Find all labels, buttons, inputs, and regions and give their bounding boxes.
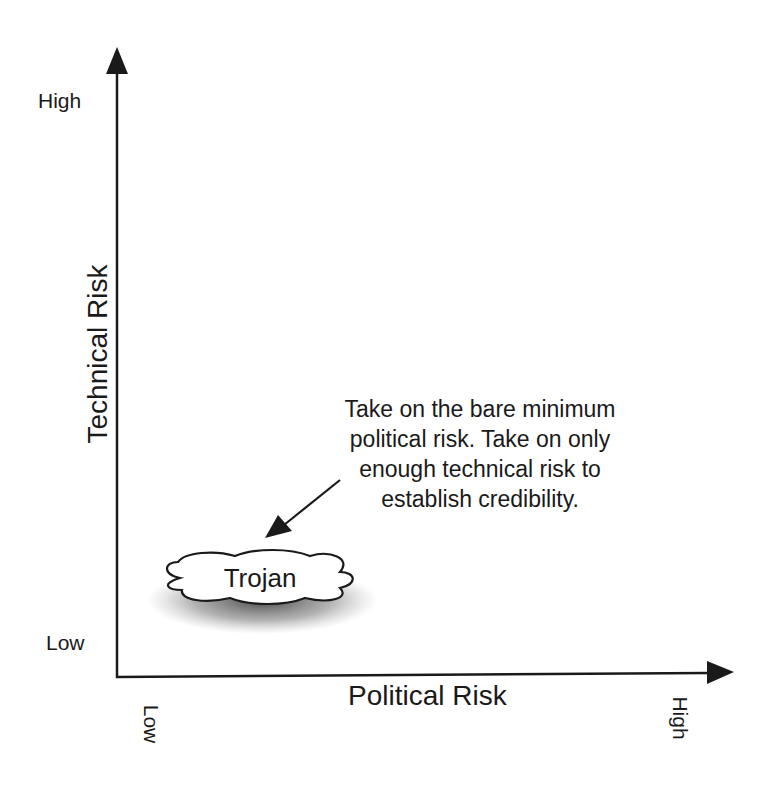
arrowhead-icon [265, 515, 292, 538]
annotation-line: enough technical risk to [300, 454, 660, 484]
x-axis-title: Political Risk [348, 680, 507, 712]
annotation-line: Take on the bare minimum [300, 394, 660, 424]
y-axis-arrowhead-icon [106, 47, 128, 74]
annotation-line: establish credibility. [300, 484, 660, 514]
x-axis-low-label: Low [139, 699, 163, 749]
y-axis-high-label: High [38, 89, 81, 113]
annotation-line: political risk. Take on only [300, 424, 660, 454]
y-axis-title: Technical Risk [82, 264, 114, 444]
trojan-label: Trojan [200, 563, 320, 594]
x-axis-arrowhead-icon [707, 661, 734, 684]
annotation-text: Take on the bare minimum political risk.… [300, 394, 660, 514]
x-axis-high-label: High [668, 690, 692, 746]
y-axis-low-label: Low [46, 631, 85, 655]
